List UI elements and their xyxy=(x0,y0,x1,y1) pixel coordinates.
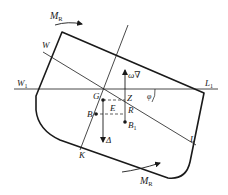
heeled-waterline xyxy=(43,52,196,145)
moment-arrow-top xyxy=(55,23,82,25)
k-label: K xyxy=(78,150,86,160)
stability-diagram: MR MR W L W1 L1 G B B1 E Z R K Δ ω∇ φ xyxy=(0,0,228,195)
point-b1 xyxy=(123,120,127,124)
l1-label: L1 xyxy=(204,78,213,89)
g-label: G xyxy=(93,91,100,101)
b-label: B xyxy=(87,109,93,119)
buoyancy-force-label: ω∇ xyxy=(128,70,141,80)
b1-label: B1 xyxy=(128,120,137,131)
hull-outline xyxy=(36,32,204,178)
w1-label: W1 xyxy=(17,78,28,89)
moment-top-label: MR xyxy=(49,10,63,22)
z-label: Z xyxy=(127,93,133,103)
w-label: W xyxy=(42,40,51,50)
heel-angle-arc xyxy=(152,89,155,102)
heel-angle-label: φ xyxy=(147,92,152,101)
r-label: R xyxy=(127,105,134,115)
centerline-axis xyxy=(80,25,128,150)
point-b xyxy=(94,112,98,116)
e-label: E xyxy=(109,103,116,113)
moment-bottom-label: MR xyxy=(139,175,153,187)
point-g xyxy=(101,98,105,102)
l-label: L xyxy=(189,134,195,144)
delta-label: Δ xyxy=(105,135,111,145)
